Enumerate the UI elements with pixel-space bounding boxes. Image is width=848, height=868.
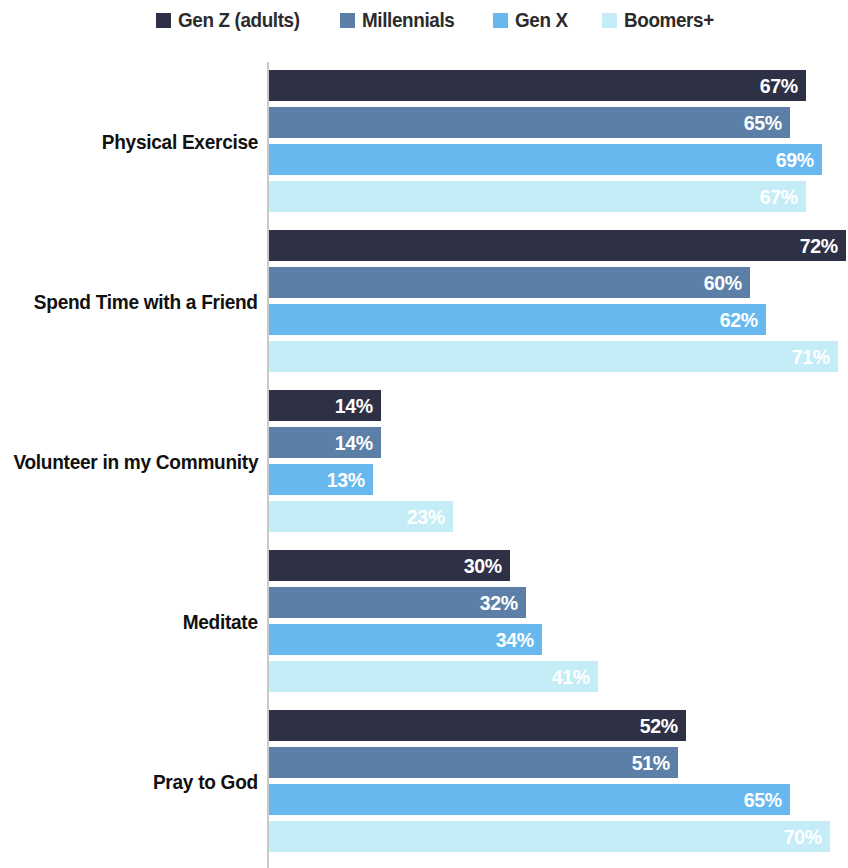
bar-value-label: 67%: [760, 181, 798, 212]
bar-row[interactable]: 52%: [269, 710, 686, 741]
bar-group: Volunteer in my Community14%14%13%23%: [0, 382, 848, 542]
bar-value-label: 41%: [552, 661, 590, 692]
bar-row[interactable]: 67%: [269, 181, 806, 212]
bar-group: Pray to God52%51%65%70%: [0, 702, 848, 862]
legend-item-label: Gen X: [515, 8, 568, 32]
bar-row[interactable]: 34%: [269, 624, 542, 655]
bar-value-label: 65%: [744, 784, 782, 815]
legend-item[interactable]: Boomers+: [602, 8, 722, 32]
bar[interactable]: [269, 267, 750, 298]
bar[interactable]: [269, 107, 790, 138]
bar-row[interactable]: 67%: [269, 70, 806, 101]
square-swatch-icon: [340, 13, 355, 28]
bar-row[interactable]: 41%: [269, 661, 598, 692]
bar-row[interactable]: 71%: [269, 341, 838, 372]
bar[interactable]: [269, 304, 766, 335]
bar-group: Meditate30%32%34%41%: [0, 542, 848, 702]
bar-group: Physical Exercise67%65%69%67%: [0, 62, 848, 222]
bar[interactable]: [269, 181, 806, 212]
bar-value-label: 51%: [632, 747, 670, 778]
bar[interactable]: [269, 747, 678, 778]
bar-row[interactable]: 65%: [269, 107, 790, 138]
category-label: Physical Exercise: [0, 62, 258, 222]
bar[interactable]: [269, 661, 598, 692]
bar-row[interactable]: 69%: [269, 144, 822, 175]
bar-group: Spend Time with a Friend72%60%62%71%: [0, 222, 848, 382]
bar-value-label: 30%: [464, 550, 502, 581]
legend-item[interactable]: Gen X: [493, 8, 572, 32]
square-swatch-icon: [602, 13, 617, 28]
bar-row[interactable]: 23%: [269, 501, 453, 532]
bar-row[interactable]: 51%: [269, 747, 678, 778]
bar[interactable]: [269, 784, 790, 815]
bar-row[interactable]: 14%: [269, 390, 381, 421]
bar-value-label: 69%: [776, 144, 814, 175]
bar-value-label: 70%: [784, 821, 822, 852]
bar-value-label: 67%: [760, 70, 798, 101]
bar-value-label: 60%: [704, 267, 742, 298]
chart-legend: Gen Z (adults)MillennialsGen XBoomers+: [0, 0, 848, 40]
bar-value-label: 72%: [800, 230, 838, 261]
bar[interactable]: [269, 230, 846, 261]
bar-value-label: 65%: [744, 107, 782, 138]
bar-value-label: 62%: [720, 304, 758, 335]
bar-row[interactable]: 72%: [269, 230, 846, 261]
bar-chart: Gen Z (adults)MillennialsGen XBoomers+ P…: [0, 0, 848, 868]
square-swatch-icon: [156, 13, 171, 28]
bar[interactable]: [269, 710, 686, 741]
legend-item-label: Gen Z (adults): [178, 8, 300, 32]
bar[interactable]: [269, 341, 838, 372]
category-label: Spend Time with a Friend: [0, 222, 258, 382]
legend-item-label: Boomers+: [624, 8, 714, 32]
category-label-text: Volunteer in my Community: [13, 451, 258, 474]
bar-value-label: 34%: [496, 624, 534, 655]
bar[interactable]: [269, 70, 806, 101]
category-label: Meditate: [0, 542, 258, 702]
legend-item[interactable]: Millennials: [340, 8, 462, 32]
bar-row[interactable]: 13%: [269, 464, 373, 495]
category-label: Volunteer in my Community: [0, 382, 258, 542]
category-label-text: Spend Time with a Friend: [34, 291, 258, 314]
bar-row[interactable]: 65%: [269, 784, 790, 815]
bar-value-label: 32%: [480, 587, 518, 618]
category-label: Pray to God: [0, 702, 258, 862]
bar[interactable]: [269, 821, 830, 852]
category-label-text: Meditate: [183, 611, 258, 634]
bar-row[interactable]: 62%: [269, 304, 766, 335]
bar-value-label: 14%: [335, 390, 373, 421]
bar-row[interactable]: 30%: [269, 550, 510, 581]
legend-item[interactable]: Gen Z (adults): [156, 8, 310, 32]
bar-value-label: 23%: [407, 501, 445, 532]
legend-item-label: Millennials: [362, 8, 454, 32]
bar-row[interactable]: 70%: [269, 821, 830, 852]
bar-value-label: 14%: [335, 427, 373, 458]
bar-row[interactable]: 32%: [269, 587, 526, 618]
category-label-text: Physical Exercise: [102, 131, 258, 154]
bar-row[interactable]: 60%: [269, 267, 750, 298]
bar[interactable]: [269, 144, 822, 175]
square-swatch-icon: [493, 13, 508, 28]
bar-value-label: 71%: [792, 341, 830, 372]
bar-value-label: 52%: [640, 710, 678, 741]
category-label-text: Pray to God: [153, 771, 258, 794]
bar-row[interactable]: 14%: [269, 427, 381, 458]
bar-value-label: 13%: [327, 464, 365, 495]
plot-area: Physical Exercise67%65%69%67%Spend Time …: [0, 48, 848, 868]
